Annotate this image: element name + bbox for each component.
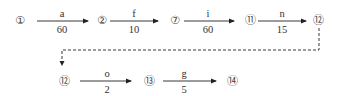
activity-label-a: a [60,8,65,19]
node-14: ⑭ [227,75,238,88]
node-1: ① [15,14,25,27]
node-11: ⑪ [245,14,256,27]
activity-label-g: g [181,68,187,79]
duration-label-g: 5 [181,84,186,95]
node-2: ② [97,14,107,27]
activity-label-n: n [279,8,285,19]
node-7: ⑦ [170,14,180,27]
node-12-bottom: ⑫ [59,75,70,88]
node-13: ⑬ [144,75,155,88]
activity-label-o: o [104,68,109,79]
node-12-top: ⑫ [313,14,324,27]
duration-label-f: 10 [129,24,140,35]
duration-label-n: 15 [277,24,288,35]
activity-label-f: f [132,8,136,19]
duration-label-o: 2 [104,84,109,95]
activity-label-i: i [207,8,210,19]
duration-label-a: 60 [57,24,68,35]
duration-label-i: 60 [203,24,214,35]
network-diagram: ① ② ⑦ ⑪ ⑫ a 60 f 10 i 60 n 15 ⑫ ⑬ ⑭ o 2 … [0,0,341,96]
continuation-arrowhead-icon [60,61,65,66]
